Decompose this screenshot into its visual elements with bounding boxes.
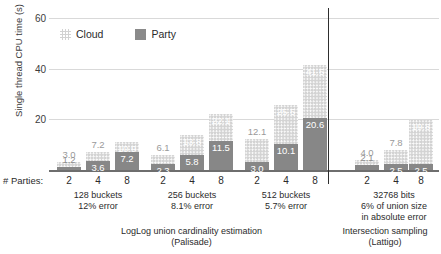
- bar-value-cloud: 19.8: [412, 122, 431, 132]
- bar-g4-2[interactable]: 4.02.1: [355, 160, 379, 170]
- legend-item-party: Party: [135, 28, 176, 40]
- bar-value-cloud: 22.1: [212, 116, 231, 126]
- bar-segment-party: 11.5: [209, 141, 233, 170]
- bar-segment-cloud: 13.8: [180, 135, 204, 155]
- x-tick-g1-4: 4: [86, 175, 110, 186]
- legend: Cloud Party: [60, 28, 176, 40]
- x-tick-g2-8: 8: [209, 175, 233, 186]
- bar-value-cloud: 7.8: [389, 138, 402, 148]
- bar-segment-cloud: 7.8: [384, 150, 408, 163]
- bar-segment-party: 2.3: [151, 164, 175, 170]
- bar-segment-party: 7.2: [115, 152, 139, 170]
- bar-g2-2[interactable]: 6.12.3: [151, 155, 175, 170]
- bar-segment-cloud: 12.1: [245, 139, 269, 162]
- bar-segment-cloud: 22.1: [209, 114, 233, 141]
- bar-value-cloud: 12.1: [248, 127, 267, 137]
- bar-value-party: 5.8: [185, 157, 198, 167]
- bar-segment-party: 2.5: [384, 164, 408, 170]
- bar-value-party: 20.6: [306, 120, 325, 130]
- bar-segment-cloud: 7.2: [86, 152, 110, 161]
- gridline-20: [49, 119, 439, 120]
- bar-segment-cloud: 41.5: [303, 65, 327, 118]
- bar-value-party: 2.1: [360, 153, 373, 163]
- bar-value-party: 2.5: [414, 166, 427, 176]
- bar-g1-4[interactable]: 7.23.6: [86, 152, 110, 170]
- group-caption-g4: 32768 bits6% of union sizein absolute er…: [333, 190, 441, 223]
- gridline-40: [49, 69, 439, 70]
- bar-g3-4[interactable]: 25.510.1: [274, 105, 298, 170]
- bar-segment-party: 1.2: [57, 167, 81, 170]
- bar-g2-8[interactable]: 22.111.5: [209, 114, 233, 170]
- bar-value-cloud: 41.5: [306, 67, 325, 77]
- bar-value-party: 1.2: [62, 155, 75, 165]
- bar-g1-2[interactable]: 3.01.2: [57, 162, 81, 170]
- gridline-60: [49, 18, 439, 19]
- bar-segment-party: 2.5: [409, 164, 433, 170]
- bar-segment-party: 3.6: [86, 161, 110, 170]
- bar-segment-cloud: 19.8: [409, 120, 433, 164]
- x-tick-g4-2: 2: [355, 175, 379, 186]
- bar-value-cloud: 6.1: [156, 143, 169, 153]
- section-caption-line: (Palisade): [55, 237, 328, 248]
- section-caption-line: LogLog union cardinality estimation: [55, 226, 328, 237]
- section-divider: [328, 8, 329, 184]
- bar-g3-2[interactable]: 12.13.0: [245, 139, 269, 170]
- bar-segment-cloud: 10.9: [115, 142, 139, 151]
- x-tick-g4-4: 4: [384, 175, 408, 186]
- legend-label-party: Party: [151, 28, 176, 40]
- caption-line: 6% of union size: [333, 201, 441, 212]
- bar-segment-cloud: 6.1: [151, 155, 175, 165]
- section-caption-line: Intersection sampling: [330, 226, 440, 237]
- section-caption-s2: Intersection sampling(Lattigo): [330, 226, 440, 248]
- bar-g4-4[interactable]: 7.82.5: [384, 150, 408, 170]
- x-axis-line: [49, 170, 439, 172]
- x-tick-g1-8: 8: [115, 175, 139, 186]
- bar-segment-party: 2.1: [355, 165, 379, 170]
- bar-segment-party: 5.8: [180, 155, 204, 170]
- x-tick-g2-2: 2: [151, 175, 175, 186]
- bar-g3-8[interactable]: 41.520.6: [303, 65, 327, 170]
- caption-line: in absolute error: [333, 212, 441, 223]
- x-tick-g1-2: 2: [57, 175, 81, 186]
- x-tick-g2-4: 4: [180, 175, 204, 186]
- bar-segment-cloud: 25.5: [274, 105, 298, 144]
- bar-segment-party: 3.0: [245, 162, 269, 170]
- y-tick-40: 40: [24, 63, 46, 74]
- bar-g1-8[interactable]: 10.97.2: [115, 142, 139, 170]
- x-tick-g4-8: 8: [409, 175, 433, 186]
- caption-line: 512 buckets: [223, 190, 349, 201]
- x-tick-g3-8: 8: [303, 175, 327, 186]
- group-caption-g3: 512 buckets5.7% error: [223, 190, 349, 212]
- section-caption-line: (Lattigo): [330, 237, 440, 248]
- bar-value-cloud: 7.2: [91, 140, 104, 150]
- legend-label-cloud: Cloud: [76, 28, 103, 40]
- chart-container: Single thread CPU time (s) 204060 Cloud …: [0, 0, 441, 254]
- bar-value-party: 3.0: [250, 164, 263, 174]
- y-tick-20: 20: [24, 114, 46, 125]
- bar-g2-4[interactable]: 13.85.8: [180, 135, 204, 170]
- legend-swatch-party-icon: [135, 29, 146, 40]
- bar-value-cloud: 25.5: [277, 107, 296, 117]
- bar-value-party: 3.6: [91, 163, 104, 173]
- bar-segment-party: 10.1: [274, 144, 298, 170]
- y-axis-label: Single thread CPU time (s): [13, 0, 24, 141]
- legend-swatch-cloud-icon: [60, 29, 71, 40]
- bar-g4-8[interactable]: 19.82.5: [409, 120, 433, 170]
- x-axis-title: # Parties:: [3, 175, 43, 186]
- bar-value-cloud: 13.8: [183, 137, 202, 147]
- y-tick-60: 60: [24, 13, 46, 24]
- bar-value-party: 2.5: [389, 166, 402, 176]
- legend-item-cloud: Cloud: [60, 28, 103, 40]
- x-tick-g3-4: 4: [274, 175, 298, 186]
- bar-value-party: 10.1: [277, 146, 296, 156]
- bar-value-party: 7.2: [120, 154, 133, 164]
- caption-line: 32768 bits: [333, 190, 441, 201]
- caption-line: 5.7% error: [223, 201, 349, 212]
- section-caption-s1: LogLog union cardinality estimation(Pali…: [55, 226, 328, 248]
- bar-value-party: 11.5: [212, 143, 230, 153]
- bar-segment-party: 20.6: [303, 118, 327, 170]
- x-tick-g3-2: 2: [245, 175, 269, 186]
